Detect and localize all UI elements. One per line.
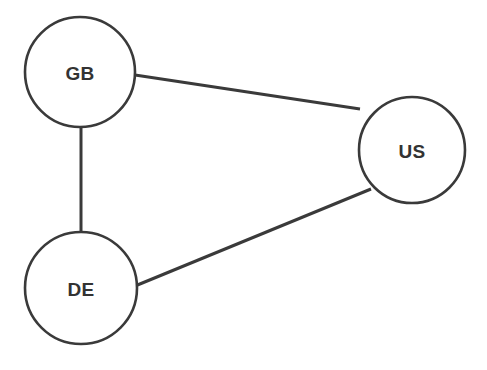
node-gb[interactable]: GB: [25, 17, 135, 127]
graph-svg: GB US DE: [0, 0, 487, 370]
node-de[interactable]: DE: [25, 232, 137, 344]
diagram-canvas: GB US DE: [0, 0, 487, 370]
edge-gb-us[interactable]: [135, 75, 360, 109]
edge-de-us[interactable]: [135, 189, 371, 286]
node-de-label: DE: [68, 279, 95, 300]
node-gb-label: GB: [66, 63, 95, 84]
node-us[interactable]: US: [359, 97, 465, 203]
node-us-label: US: [399, 141, 426, 162]
